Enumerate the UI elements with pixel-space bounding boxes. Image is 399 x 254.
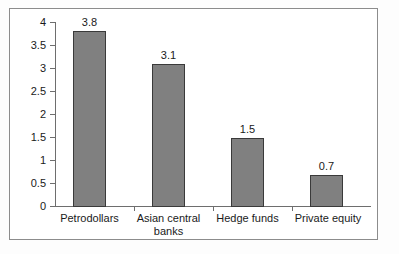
- bar-private-equity: [310, 175, 343, 207]
- y-tick-label: 0.5: [16, 178, 46, 189]
- y-tick-label: 2: [16, 109, 46, 120]
- x-tick-mark: [292, 207, 293, 211]
- y-tick-mark: [50, 206, 55, 207]
- y-tick-label: 3: [16, 63, 46, 74]
- bar-value-label: 3.8: [65, 16, 114, 28]
- y-tick-mark: [50, 114, 55, 115]
- x-tick-mark: [134, 207, 135, 211]
- y-tick-label: 0: [16, 201, 46, 212]
- figure-frame: 0 0.5 1 1.5 2 2.5 3 3.5 4 3.8 3.1 1.5 0.…: [9, 8, 378, 240]
- y-tick-label: 1: [16, 155, 46, 166]
- y-tick-label: 2.5: [16, 86, 46, 97]
- bar-hedge-funds: [231, 138, 264, 207]
- y-tick-label: 1.5: [16, 132, 46, 143]
- y-tick-mark: [50, 160, 55, 161]
- y-tick-label: 3.5: [16, 40, 46, 51]
- y-tick-mark: [50, 22, 55, 23]
- bar-value-label: 1.5: [223, 123, 272, 135]
- category-label-private-equity: Private equity: [288, 212, 368, 225]
- bar-petrodollars: [73, 31, 106, 207]
- y-tick-label: 4: [16, 17, 46, 28]
- bar-value-label: 3.1: [144, 49, 193, 61]
- bar-chart-figure: 0 0.5 1 1.5 2 2.5 3 3.5 4 3.8 3.1 1.5 0.…: [0, 0, 399, 254]
- y-tick-mark: [50, 91, 55, 92]
- y-tick-mark: [50, 137, 55, 138]
- category-label-petrodollars: Petrodollars: [51, 212, 128, 225]
- y-tick-mark: [50, 68, 55, 69]
- category-label-hedge-funds: Hedge funds: [209, 212, 286, 225]
- y-axis-line: [55, 22, 56, 207]
- y-tick-mark: [50, 183, 55, 184]
- category-label-asian-central-banks: Asian central banks: [130, 212, 207, 238]
- bar-value-label: 0.7: [302, 160, 351, 172]
- y-tick-mark: [50, 45, 55, 46]
- bar-asian-central-banks: [152, 64, 185, 207]
- x-tick-mark: [213, 207, 214, 211]
